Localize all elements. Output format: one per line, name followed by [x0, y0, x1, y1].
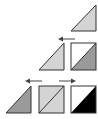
- row-3-triangle-grey: [5, 85, 32, 114]
- row-3-arrow-right-icon: [58, 78, 76, 84]
- row-3-square-light-diagonal: [38, 85, 65, 114]
- row-3-arrow-left-icon: [25, 78, 43, 84]
- row-2-triangle-light: [38, 42, 65, 71]
- row-3-square-white-black: [70, 85, 97, 114]
- row-2-square-white-grey: [70, 42, 97, 71]
- row-1-triangle-light: [70, 4, 97, 32]
- diagram: [0, 0, 98, 119]
